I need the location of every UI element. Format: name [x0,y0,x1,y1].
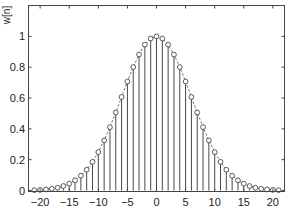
data-point-marker [61,184,66,189]
data-point-marker [90,159,95,164]
y-axis-label: w[n] [1,6,12,26]
y-tick-label: 0.6 [10,92,25,104]
data-point-marker [189,95,194,100]
data-point-marker [160,36,165,41]
data-point-marker [259,186,264,191]
x-tick-label: −5 [121,196,134,208]
data-point-marker [172,52,177,57]
data-point-marker [113,110,118,115]
data-point-marker [131,65,136,70]
x-tick-label: −10 [89,196,108,208]
data-point-marker [96,150,101,155]
y-tick-label: 0 [19,185,25,197]
data-point-marker [67,181,72,186]
data-point-marker [142,42,147,47]
y-tick-label: 0.2 [10,154,25,166]
y-tick-label: 0.8 [10,61,25,73]
data-point-marker [183,79,188,84]
data-point-marker [218,159,223,164]
data-point-marker [119,95,124,100]
data-point-marker [230,173,235,178]
data-point-marker [195,110,200,115]
data-point-marker [166,42,171,47]
stems [34,36,278,190]
data-point-marker [212,150,217,155]
data-point-marker [177,65,182,70]
data-point-marker [224,167,229,172]
data-point-marker [236,178,241,183]
x-tick-label: 5 [183,196,189,208]
x-tick-label: −15 [60,196,79,208]
y-axis-ticks: 00.20.40.60.81 [10,30,285,196]
data-point-marker [125,79,130,84]
y-tick-label: 0.4 [10,123,25,135]
stem-plot: −20−15−10−505101520 00.20.40.60.81 w[n] [0,0,289,217]
data-point-marker [84,167,89,172]
data-point-marker [253,185,258,190]
data-point-marker [78,173,83,178]
data-point-marker [247,184,252,189]
data-point-marker [102,138,107,143]
data-point-marker [73,178,78,183]
x-tick-label: 10 [209,196,221,208]
data-point-marker [241,181,246,186]
data-point-marker [148,36,153,41]
data-point-marker [154,34,159,39]
data-point-marker [108,125,113,130]
data-point-marker [201,125,206,130]
y-tick-label: 1 [19,30,25,42]
data-point-marker [49,186,54,191]
x-tick-label: 20 [267,196,279,208]
x-tick-label: −20 [31,196,50,208]
plot-area [32,34,281,193]
data-point-marker [55,185,60,190]
data-point-marker [137,52,142,57]
data-point-marker [206,138,211,143]
x-tick-label: 0 [153,196,159,208]
x-tick-label: 15 [238,196,250,208]
